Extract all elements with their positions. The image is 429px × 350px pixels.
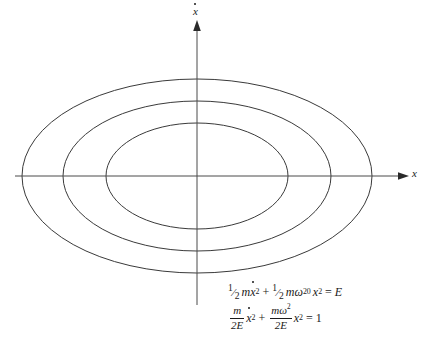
energy-equation: 1⁄2 m x2 + 1⁄2 m ω20 x2 = E	[228, 282, 342, 302]
dot-accent-icon	[252, 281, 254, 283]
fraction-denominator: 2E	[230, 320, 244, 332]
fraction-numerator: m	[232, 305, 242, 317]
omega-symbol: ω	[279, 304, 287, 316]
exponent-two: 2	[287, 303, 291, 311]
one-half-denominator: 2	[279, 290, 284, 301]
x-axis-label-text: x	[412, 167, 417, 179]
xdot-squared-term-1: x2	[250, 285, 259, 300]
xdot-glyph: x	[193, 6, 198, 17]
xdot-squared-term-2: x2	[246, 311, 255, 326]
equals-operator-1: =	[325, 285, 332, 300]
normalized-ellipse-equation: m 2E x2 + mω2 2E x2 = 1	[228, 305, 342, 331]
mass-symbol-2: m	[286, 285, 295, 300]
equals-operator-2: =	[306, 311, 313, 326]
xdot-base: x	[250, 285, 255, 299]
fraction-denominator: 2E	[274, 320, 288, 332]
one-half-fraction: 1⁄2	[228, 285, 240, 300]
fraction-numerator: mω2	[270, 305, 291, 317]
xdot-base: x	[246, 311, 251, 325]
m-over-2E-fraction: m 2E	[230, 305, 244, 331]
dot-accent-icon	[194, 3, 196, 5]
energy-symbol: E	[335, 285, 342, 300]
dot-accent-icon	[248, 307, 250, 309]
x-squared-term-2: x2	[294, 311, 303, 326]
one-half-denominator: 2	[235, 290, 240, 301]
omega-symbol: ω	[294, 285, 302, 300]
mass-symbol-1: m	[242, 285, 251, 300]
phase-space-figure: x x 1⁄2 m x2 + 1⁄2 m ω20 x2 = E m 2E x2 …	[0, 0, 429, 350]
phase-portrait-plot	[0, 0, 429, 350]
axes-group	[15, 20, 409, 305]
x-squared-term-1: x2	[313, 285, 322, 300]
x-axis-label: x	[412, 168, 417, 179]
plus-operator-1: +	[262, 285, 269, 300]
plus-operator-2: +	[259, 311, 266, 326]
xdot-glyph: x	[250, 285, 255, 300]
m-omega-squared-over-2E-fraction: mω2 2E	[270, 305, 291, 331]
xdot-glyph: x	[246, 311, 251, 326]
unity-value: 1	[316, 311, 322, 326]
equation-block: 1⁄2 m x2 + 1⁄2 m ω20 x2 = E m 2E x2 + mω…	[228, 282, 342, 331]
omega-zero-squared-term: ω20	[294, 285, 310, 300]
one-half-fraction-2: 1⁄2	[272, 285, 284, 300]
xdot-axis-label: x	[193, 6, 198, 17]
y-axis-arrowhead	[193, 20, 201, 31]
x-axis-arrowhead	[398, 172, 409, 180]
xdot-axis-label-text: x	[193, 5, 198, 17]
